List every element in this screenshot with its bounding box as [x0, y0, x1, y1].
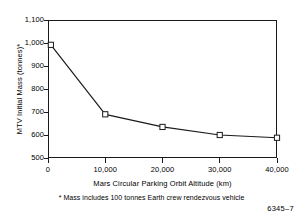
- x-axis-tick: [277, 158, 278, 163]
- y-axis-tick-label: 600: [31, 131, 44, 139]
- x-axis-tick-label: 20,000: [151, 166, 175, 174]
- figure-id-label: 6345–7: [267, 204, 294, 213]
- footnote-text: * Mass includes 100 tonnes Earth crew re…: [0, 193, 303, 202]
- x-axis-tick: [48, 158, 49, 163]
- y-axis-tick-label: 800: [31, 85, 44, 93]
- x-axis-tick-label: 10,000: [93, 166, 117, 174]
- y-axis-tick-label: 1,000: [25, 39, 44, 47]
- x-axis-tick-label: 30,000: [208, 166, 232, 174]
- y-axis-tick-label: 700: [31, 108, 44, 116]
- x-axis-tick-label: 40,000: [265, 166, 289, 174]
- y-axis-tick-label: 500: [31, 154, 44, 162]
- y-axis-title: MTV Initial Mass (tonnes)*: [15, 20, 24, 158]
- plot-area: [48, 20, 277, 158]
- x-axis-title: Mars Circular Parking Orbit Altitude (km…: [48, 179, 277, 188]
- y-axis-tick-label: 1,100: [25, 16, 44, 24]
- y-axis-tick-label: 900: [31, 62, 44, 70]
- x-axis-tick: [105, 158, 106, 163]
- x-axis-tick: [219, 158, 220, 163]
- x-axis-tick: [162, 158, 163, 163]
- figure-container: MTV Initial Mass (tonnes)* 5006007008009…: [0, 0, 303, 215]
- x-axis-tick-label: 0: [46, 166, 50, 174]
